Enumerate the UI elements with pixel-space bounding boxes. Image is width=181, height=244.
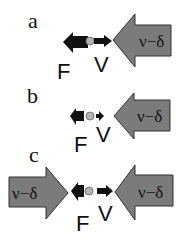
panel-b: b ν−δ F V [27,83,170,157]
big-arrow-label: ν−δ [137,107,162,126]
big-arrow-label-right: ν−δ [138,183,163,202]
big-arrow-label: ν−δ [139,32,164,51]
figure-canvas: a ν−δ F V b ν−δ F V c [0,0,181,244]
laser-beam-arrow-icon: ν−δ [114,93,170,139]
velocity-arrow-icon [97,185,113,197]
particle-icon [86,37,94,45]
force-label: F [57,59,70,84]
laser-beam-arrow-right-icon: ν−δ [115,165,173,220]
panel-label-b: b [27,83,38,108]
big-arrow-label-left: ν−δ [12,184,37,203]
laser-beam-arrow-icon: ν−δ [113,14,171,67]
laser-beam-arrow-left-icon: ν−δ [9,167,68,219]
panel-a: a ν−δ F V [28,8,171,84]
particle-icon [85,187,93,195]
particle-icon [86,112,94,120]
panel-label-a: a [28,8,38,33]
force-arrow-icon [71,182,84,201]
force-label: F [76,211,89,236]
velocity-arrow-icon [96,111,104,121]
velocity-label: V [98,201,113,226]
force-label: F [74,132,87,157]
velocity-label: V [96,122,111,147]
panel-c: c ν−δ ν−δ F V [9,142,173,236]
force-arrow-icon [63,32,88,53]
panel-label-c: c [29,142,39,167]
velocity-arrow-icon [94,35,112,47]
velocity-label: V [94,52,109,77]
force-arrow-icon [70,108,84,125]
